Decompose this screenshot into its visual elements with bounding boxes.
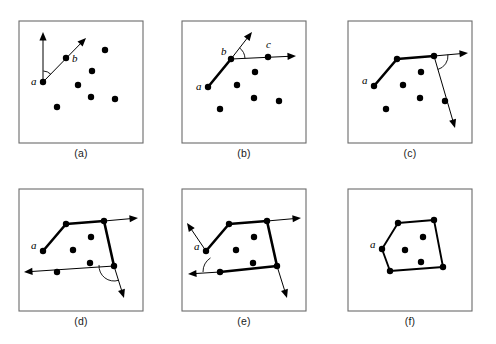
point-p6-f bbox=[420, 234, 426, 240]
point-c-c bbox=[431, 53, 437, 59]
point-label-c-b: c bbox=[266, 38, 271, 50]
point-p4-a bbox=[89, 68, 95, 74]
point-label-a-a: a bbox=[31, 75, 37, 87]
point-a-b bbox=[205, 84, 211, 90]
point-b-e bbox=[226, 221, 232, 227]
point-b-a bbox=[63, 55, 69, 61]
point-c-d bbox=[101, 218, 107, 224]
point-d-e bbox=[274, 263, 280, 269]
panel-caption-f: (f) bbox=[348, 315, 472, 327]
point-a-f bbox=[379, 246, 385, 252]
point-label-b-b: b bbox=[221, 45, 227, 57]
point-label-b-a: b bbox=[72, 52, 78, 64]
point-p6-d bbox=[70, 247, 76, 253]
point-label-a-b: a bbox=[196, 80, 202, 92]
point-p4-c bbox=[418, 69, 424, 75]
point-a-e bbox=[203, 248, 209, 254]
point-p7-d bbox=[87, 260, 93, 266]
panel-frame-a bbox=[19, 21, 143, 143]
point-a-a bbox=[40, 79, 46, 85]
point-p8-b bbox=[217, 106, 223, 112]
panel-caption-e: (e) bbox=[182, 315, 306, 327]
point-p7-a bbox=[112, 96, 118, 102]
point-b-f bbox=[395, 220, 401, 226]
point-label-a-c: a bbox=[362, 74, 368, 86]
panel-caption-d: (d) bbox=[19, 315, 143, 327]
panel-c: a bbox=[348, 21, 472, 143]
point-b-c bbox=[394, 56, 400, 62]
convex-hull-figure: ababcaaaa (a)(b)(c)(d)(e)(f) bbox=[0, 0, 496, 344]
panel-caption-a: (a) bbox=[19, 147, 143, 159]
point-a-c bbox=[371, 83, 377, 89]
point-p4-b bbox=[252, 69, 258, 75]
point-b-d bbox=[63, 221, 69, 227]
point-p5-c bbox=[400, 82, 406, 88]
point-p7-c bbox=[442, 98, 448, 104]
point-d-d bbox=[111, 263, 117, 269]
point-c-e bbox=[264, 218, 270, 224]
point-p3-a bbox=[75, 82, 81, 88]
point-c-b bbox=[265, 54, 271, 60]
point-label-a-d: a bbox=[31, 239, 37, 251]
point-p5-d bbox=[88, 234, 94, 240]
panel-frame-f bbox=[348, 189, 472, 311]
point-p8-e bbox=[250, 260, 256, 266]
point-e-f bbox=[387, 268, 393, 274]
panel-caption-b: (b) bbox=[182, 147, 306, 159]
panel-b: abc bbox=[182, 21, 306, 143]
panel-caption-c: (c) bbox=[348, 147, 472, 159]
point-p8-a bbox=[54, 104, 60, 110]
point-p8-f bbox=[418, 259, 424, 265]
point-p5-a bbox=[102, 47, 108, 53]
point-p6-e bbox=[251, 234, 257, 240]
point-a-d bbox=[40, 248, 46, 254]
point-p6-a bbox=[88, 94, 94, 100]
panel-a: ab bbox=[19, 21, 143, 143]
point-d-f bbox=[440, 264, 446, 270]
panel-d: a bbox=[19, 189, 143, 311]
point-c-f bbox=[431, 217, 437, 223]
point-b-b bbox=[228, 56, 234, 62]
point-p6-b bbox=[251, 95, 257, 101]
panel-f: a bbox=[348, 189, 472, 311]
figure-canvas: ababcaaaa bbox=[0, 0, 496, 344]
point-label-a-f: a bbox=[370, 238, 376, 250]
point-p7-e bbox=[233, 247, 239, 253]
point-p7-f bbox=[402, 247, 408, 253]
point-e-e bbox=[217, 269, 223, 275]
point-p8-d bbox=[54, 269, 60, 275]
point-p5-b bbox=[234, 82, 240, 88]
panel-e: a bbox=[182, 189, 306, 311]
point-p7-b bbox=[276, 98, 282, 104]
point-label-a-e: a bbox=[194, 240, 200, 252]
point-p8-c bbox=[383, 106, 389, 112]
point-p6-c bbox=[417, 95, 423, 101]
